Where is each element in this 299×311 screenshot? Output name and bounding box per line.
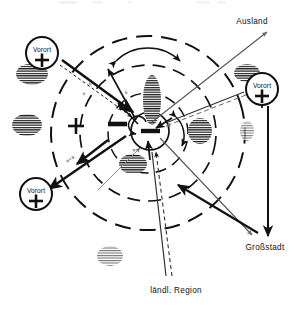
- hatched-blob: [188, 118, 212, 144]
- label-ausland: Ausland: [236, 17, 268, 26]
- stadtregion-schematic: Vorort Vorort Vorort w: [0, 0, 299, 311]
- node-label: Vorort: [253, 82, 271, 89]
- label-laendl-region: ländl. Region: [150, 286, 202, 295]
- node-label: Vorort: [27, 187, 45, 194]
- label-grossstadt: Großstadt: [245, 243, 285, 252]
- node-label: Vorort: [33, 46, 51, 53]
- hatched-blob: [97, 246, 123, 266]
- hatched-blob: [119, 154, 147, 174]
- diagram-canvas: Vorort Vorort Vorort w: [0, 0, 299, 311]
- hatched-blob: [240, 121, 254, 141]
- node-vorort-bottom-left: Vorort: [20, 178, 52, 210]
- node-vorort-top-left: Vorort: [26, 37, 58, 69]
- hatched-blob: [12, 114, 42, 136]
- node-vorort-right: Vorort: [246, 73, 278, 105]
